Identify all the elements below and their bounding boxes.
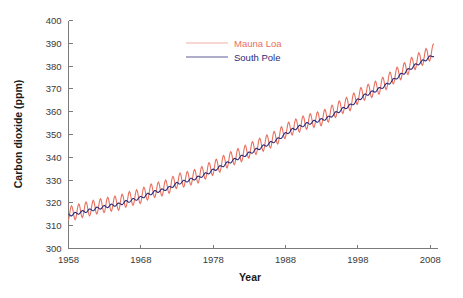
series-line-south-pole [69, 56, 434, 216]
series-line-mauna-loa [69, 44, 434, 220]
y-tick-label: 320 [46, 197, 62, 208]
x-tick-label: 1958 [58, 254, 79, 265]
y-tick-label: 390 [46, 38, 62, 49]
x-axis-title: Year [239, 271, 261, 283]
x-tick-label: 1978 [203, 254, 224, 265]
data-series-group [69, 44, 434, 220]
co2-keeling-curve-chart: 300310320330340350360370380390400 195819… [0, 0, 463, 298]
y-tick-label: 380 [46, 61, 62, 72]
y-tick-label: 350 [46, 129, 62, 140]
y-axis-title: Carbon dioxide (ppm) [12, 80, 24, 189]
y-tick-label: 370 [46, 83, 62, 94]
x-tick-label: 1968 [130, 254, 151, 265]
legend-label-south-pole: South Pole [234, 52, 280, 63]
y-tick-label: 400 [46, 15, 62, 26]
x-tick-label: 1998 [347, 254, 368, 265]
chart-legend: Mauna LoaSouth Pole [186, 38, 282, 63]
y-tick-label: 310 [46, 220, 62, 231]
x-tick-label: 1988 [275, 254, 296, 265]
y-tick-label: 330 [46, 175, 62, 186]
x-axis-ticks: 195819681978198819982008 [58, 245, 441, 265]
y-tick-label: 300 [46, 243, 62, 254]
y-tick-label: 340 [46, 152, 62, 163]
chart-canvas: 300310320330340350360370380390400 195819… [0, 0, 463, 298]
legend-label-mauna-loa: Mauna Loa [234, 38, 282, 49]
x-tick-label: 2008 [420, 254, 441, 265]
y-tick-label: 360 [46, 106, 62, 117]
